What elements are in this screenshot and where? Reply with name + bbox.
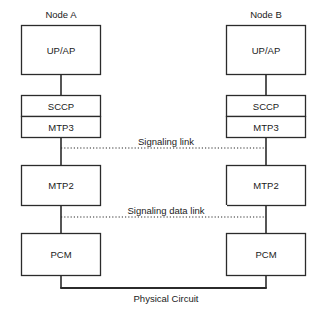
- physical-circuit-label: Physical Circuit: [113, 293, 219, 304]
- node-a-title: Node A: [21, 9, 101, 20]
- signaling-link-label: Signaling link: [113, 136, 219, 147]
- ss7-stack-diagram: Node A Node B UP/AP SCCP MTP3 MTP2 PCM U…: [0, 0, 324, 313]
- node-a-layer-sccp-label: SCCP: [21, 95, 101, 117]
- node-a-layer-upap-label: UP/AP: [21, 25, 101, 75]
- node-b-layer-mtp2-label: MTP2: [226, 165, 306, 206]
- node-b-layer-mtp3-label: MTP3: [226, 116, 306, 138]
- node-b-layer-upap-label: UP/AP: [226, 25, 306, 75]
- node-b-layer-pcm-label: PCM: [226, 233, 306, 276]
- node-b-layer-sccp-label: SCCP: [226, 95, 306, 117]
- node-a-layer-mtp2-label: MTP2: [21, 165, 101, 206]
- node-a-layer-mtp3-label: MTP3: [21, 116, 101, 138]
- signaling-data-link-label: Signaling data link: [105, 205, 227, 216]
- node-a-layer-pcm-label: PCM: [21, 233, 101, 276]
- node-b-title: Node B: [226, 9, 306, 20]
